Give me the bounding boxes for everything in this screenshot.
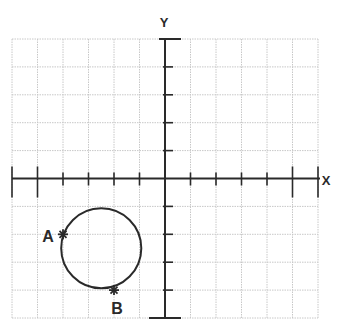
x-axis-label: X [322, 173, 331, 188]
point-b-marker [109, 285, 119, 295]
coordinate-plane: Y X A B [0, 0, 337, 333]
point-a-label: A [42, 228, 54, 245]
circle-curve [61, 208, 141, 288]
point-a-marker [58, 229, 68, 239]
y-axis-label: Y [160, 15, 169, 30]
point-b-label: B [111, 300, 123, 317]
axes [12, 39, 320, 318]
